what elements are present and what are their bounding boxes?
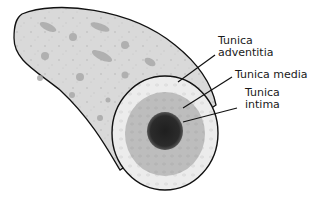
label-intima-line2: intima (245, 99, 280, 111)
label-adventitia-line2: adventitia (218, 47, 273, 59)
label-media-line1: Tunica media (235, 69, 308, 81)
label-tunica-intima: Tunica intima (245, 87, 280, 111)
label-tunica-adventitia: Tunica adventitia (218, 35, 273, 59)
tunica-intima-core (147, 112, 183, 150)
label-tunica-media: Tunica media (235, 69, 308, 81)
